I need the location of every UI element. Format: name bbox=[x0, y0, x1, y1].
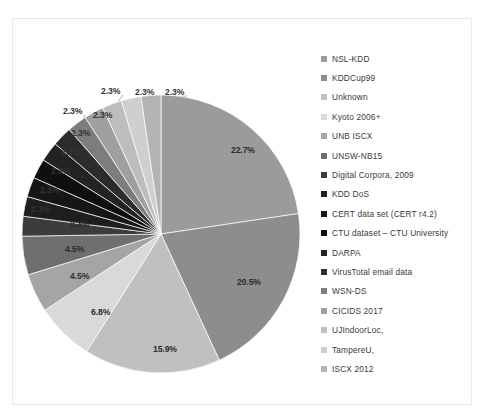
legend-swatch-icon bbox=[321, 269, 327, 275]
legend-item[interactable]: Unknown bbox=[321, 88, 471, 107]
legend-item[interactable]: CERT data set (CERT r4.2) bbox=[321, 204, 471, 223]
legend-swatch-icon bbox=[321, 153, 327, 159]
legend-swatch-icon bbox=[321, 327, 327, 333]
legend-item-label: WSN-DS bbox=[332, 286, 367, 296]
legend-item-label: Digital Corpora, 2009 bbox=[332, 170, 414, 180]
legend-item[interactable]: VirusTotal email data bbox=[321, 262, 471, 281]
legend-swatch-icon bbox=[321, 366, 327, 372]
legend-item-label: CTU dataset – CTU University bbox=[332, 228, 448, 238]
legend-item-label: UNB ISCX bbox=[332, 131, 373, 141]
slice-percentage-label: 2.3% bbox=[135, 87, 154, 97]
legend-item[interactable]: Digital Corpora, 2009 bbox=[321, 165, 471, 184]
legend-item[interactable]: UNSW-NB15 bbox=[321, 146, 471, 165]
pie-chart-plot-area: 22.7%20.5%15.9%6.8%4.5%4.5%2.3%2.3%2.3%2… bbox=[13, 19, 313, 404]
legend-swatch-icon bbox=[321, 56, 327, 62]
slice-percentage-label: 22.7% bbox=[231, 145, 255, 155]
legend-swatch-icon bbox=[321, 114, 327, 120]
legend-swatch-icon bbox=[321, 250, 327, 256]
legend-item-label: KDDCup99 bbox=[332, 73, 375, 83]
pie-slices-group bbox=[22, 95, 300, 373]
legend-item[interactable]: CTU dataset – CTU University bbox=[321, 224, 471, 243]
legend-item[interactable]: CICIDS 2017 bbox=[321, 301, 471, 320]
slice-percentage-label: 6.8% bbox=[91, 307, 110, 317]
legend-item[interactable]: UNB ISCX bbox=[321, 127, 471, 146]
slice-percentage-label: 2.3% bbox=[93, 110, 112, 120]
legend-item-label: Kyoto 2006+ bbox=[332, 112, 381, 122]
legend-swatch-icon bbox=[321, 172, 327, 178]
legend-item-label: ISCX 2012 bbox=[332, 364, 374, 374]
legend-item-label: UJIndoorLoc, bbox=[332, 325, 383, 335]
legend-item[interactable]: Kyoto 2006+ bbox=[321, 107, 471, 126]
slice-percentage-label: 20.5% bbox=[237, 277, 261, 287]
legend-item[interactable]: KDD DoS bbox=[321, 185, 471, 204]
legend-item-label: UNSW-NB15 bbox=[332, 151, 382, 161]
slice-percentage-label: 2.3% bbox=[31, 204, 50, 214]
legend-swatch-icon bbox=[321, 347, 327, 353]
slice-percentage-label: 15.9% bbox=[153, 344, 177, 354]
slice-percentage-label: 2.3% bbox=[70, 219, 89, 229]
slice-percentage-label: 2.3% bbox=[101, 86, 120, 96]
slice-percentage-label: 2.3% bbox=[40, 185, 59, 195]
legend-swatch-icon bbox=[321, 94, 327, 100]
slice-percentage-label: 2.3% bbox=[71, 128, 90, 138]
legend-item[interactable]: WSN-DS bbox=[321, 282, 471, 301]
legend-item[interactable]: KDDCup99 bbox=[321, 68, 471, 87]
legend-item-label: KDD DoS bbox=[332, 189, 369, 199]
legend-item-label: NSL-KDD bbox=[332, 54, 370, 64]
slice-percentage-label: 2.3% bbox=[51, 166, 70, 176]
legend-item[interactable]: UJIndoorLoc, bbox=[321, 320, 471, 339]
chart-legend: NSL-KDDKDDCup99UnknownKyoto 2006+UNB ISC… bbox=[321, 49, 471, 379]
legend-item-label: DARPA bbox=[332, 248, 361, 258]
legend-swatch-icon bbox=[321, 133, 327, 139]
legend-swatch-icon bbox=[321, 288, 327, 294]
slice-percentage-label: 2.3% bbox=[165, 87, 184, 97]
legend-item[interactable]: TampereU, bbox=[321, 340, 471, 359]
slice-percentage-label: 4.5% bbox=[70, 271, 89, 281]
legend-item-label: CERT data set (CERT r4.2) bbox=[332, 209, 437, 219]
legend-item-label: TampereU, bbox=[332, 345, 374, 355]
legend-item[interactable]: NSL-KDD bbox=[321, 49, 471, 68]
legend-swatch-icon bbox=[321, 191, 327, 197]
legend-item[interactable]: DARPA bbox=[321, 243, 471, 262]
legend-swatch-icon bbox=[321, 211, 327, 217]
legend-swatch-icon bbox=[321, 308, 327, 314]
legend-swatch-icon bbox=[321, 75, 327, 81]
legend-item-label: VirusTotal email data bbox=[332, 267, 412, 277]
chart-figure-frame: 22.7%20.5%15.9%6.8%4.5%4.5%2.3%2.3%2.3%2… bbox=[12, 18, 472, 405]
legend-swatch-icon bbox=[321, 230, 327, 236]
pie-slice[interactable] bbox=[161, 95, 298, 234]
legend-item[interactable]: ISCX 2012 bbox=[321, 359, 471, 378]
slice-percentage-label: 2.3% bbox=[63, 106, 82, 116]
legend-item-label: CICIDS 2017 bbox=[332, 306, 383, 316]
slice-percentage-label: 2.3% bbox=[61, 147, 80, 157]
legend-item-label: Unknown bbox=[332, 92, 368, 102]
slice-percentage-label: 4.5% bbox=[65, 244, 84, 254]
